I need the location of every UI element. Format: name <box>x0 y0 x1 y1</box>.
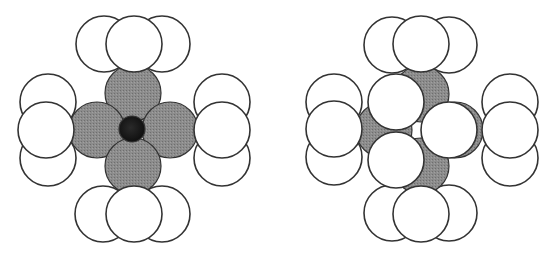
white-atom-circle <box>393 16 449 72</box>
right-model <box>306 16 538 242</box>
white-atom-circle <box>106 186 162 242</box>
white-atom-circle <box>393 186 449 242</box>
dark-atom-circle <box>119 116 145 142</box>
white-atom-circle <box>368 74 424 130</box>
left-model <box>18 16 250 242</box>
white-atom-circle <box>106 16 162 72</box>
white-atom-circle <box>368 132 424 188</box>
white-atom-circle <box>482 102 538 158</box>
diagram-canvas <box>0 0 552 258</box>
white-atom-circle <box>194 102 250 158</box>
white-atom-circle <box>18 102 74 158</box>
white-atom-circle <box>421 102 477 158</box>
white-atom-circle <box>306 101 362 157</box>
molecular-model-diagram <box>0 0 552 258</box>
